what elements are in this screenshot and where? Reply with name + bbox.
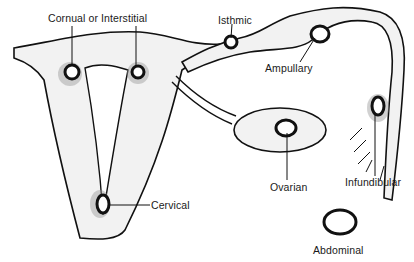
infundibular-sac [372, 97, 384, 115]
label-isthmic: Isthmic [218, 14, 252, 26]
label-abdominal: Abdominal [313, 244, 364, 256]
cornual-sac-right [132, 66, 144, 78]
label-ovarian: Ovarian [270, 181, 307, 193]
label-ampullary: Ampullary [265, 62, 313, 74]
anatomy-drawing [0, 0, 414, 262]
cornual-sac-left [65, 65, 79, 79]
ectopic-pregnancy-diagram: Cornual or Interstitial Isthmic Ampullar… [0, 0, 414, 262]
fimbriae [350, 128, 384, 180]
ovarian-sac [276, 120, 296, 136]
cervical-sac [97, 195, 109, 213]
abdominal-sac [324, 210, 356, 234]
label-cornual: Cornual or Interstitial [48, 12, 147, 24]
label-cervical: Cervical [151, 199, 190, 211]
label-infundibular: Infundibular [345, 176, 401, 188]
ovarian-ligament [172, 82, 232, 124]
